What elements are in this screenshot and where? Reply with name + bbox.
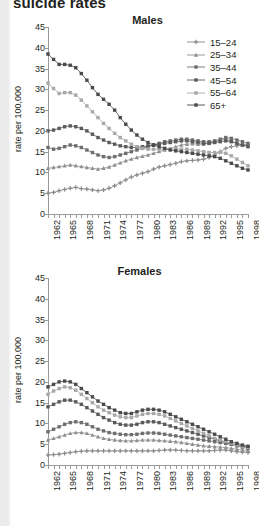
x-tick-mark [142,214,143,218]
x-tick-mark [104,465,105,469]
legend-item-45-54: 45–54 [185,74,236,87]
x-tick-label: 1968 [85,220,95,240]
y-tick-mark [44,340,48,341]
chart-panel-males: Males 051015202530354045rate per 100,000… [0,12,259,255]
x-tick-mark [209,214,210,218]
legend-item-25-34: 25–34 [185,49,236,62]
x-tick-mark [131,465,132,469]
x-tick-label: 1983 [168,471,178,491]
x-tick-mark [165,465,166,469]
x-tick-mark [198,214,199,218]
x-tick-mark [159,465,160,469]
legend-label: 55–64 [210,87,236,98]
legend-item-15-24: 15–24 [185,36,236,49]
x-tick-mark [109,465,110,469]
x-tick-mark [87,465,88,469]
x-tick-label: 1995 [235,471,245,491]
x-tick-mark [115,214,116,218]
x-tick-label: 1998 [252,220,260,240]
x-tick-mark [242,214,243,218]
x-tick-mark [181,465,182,469]
x-tick-mark [76,214,77,218]
x-tick-mark [109,214,110,218]
x-tick-label: 1971 [102,471,112,491]
x-tick-label: 1992 [218,220,228,240]
x-tick-mark [170,214,171,218]
x-tick-mark [170,465,171,469]
legend-marker-icon [185,74,207,86]
x-tick-mark [54,465,55,469]
x-tick-label: 1986 [185,471,195,491]
x-tick-mark [148,465,149,469]
y-tick-mark [44,403,48,404]
x-tick-mark [248,465,249,469]
y-tick-mark [44,278,48,279]
x-tick-label: 1965 [68,471,78,491]
chart-panel-females: Females 051015202530354045rate per 100,0… [0,263,259,523]
x-tick-label: 1968 [85,471,95,491]
x-tick-mark [198,465,199,469]
x-tick-mark [120,214,121,218]
legend-item-65+: 65+ [185,99,236,112]
series-line-15-24 [48,144,248,193]
x-tick-mark [98,465,99,469]
y-tick-mark [44,110,48,111]
page-title: suicide rates [13,0,106,11]
x-tick-mark [176,214,177,218]
legend-label: 35–44 [210,62,236,73]
x-tick-mark [92,465,93,469]
y-tick-mark [44,131,48,132]
x-tick-label: 1980 [152,471,162,491]
x-tick-label: 1971 [102,220,112,240]
x-tick-mark [215,214,216,218]
x-tick-label: 1962 [52,220,62,240]
x-tick-mark [148,214,149,218]
x-tick-mark [226,214,227,218]
y-tick-mark [44,172,48,173]
chart-legend: 15–2425–3435–4445–5455–6465+ [185,36,236,112]
x-tick-mark [76,465,77,469]
x-tick-mark [126,465,127,469]
x-tick-mark [137,465,138,469]
x-tick-label: 1995 [235,220,245,240]
x-tick-mark [248,214,249,218]
legend-marker-icon [185,36,207,48]
legend-marker-icon [185,49,207,61]
x-tick-mark [92,214,93,218]
x-tick-mark [215,465,216,469]
x-tick-label: 1974 [118,220,128,240]
x-tick-mark [231,465,232,469]
chart-title-females: Females [10,265,259,277]
x-tick-mark [70,214,71,218]
chart-svg [48,278,248,465]
x-tick-mark [220,465,221,469]
x-tick-mark [237,465,238,469]
y-tick-mark [44,69,48,70]
x-tick-label: 1983 [168,220,178,240]
x-tick-mark [126,214,127,218]
x-tick-label: 1974 [118,471,128,491]
x-tick-mark [59,214,60,218]
x-tick-mark [115,465,116,469]
x-tick-mark [142,465,143,469]
x-tick-mark [176,465,177,469]
x-tick-mark [159,214,160,218]
x-tick-mark [220,214,221,218]
legend-marker-icon [185,87,207,99]
plot-area-females: 051015202530354045rate per 100,000196219… [48,278,248,465]
y-tick-mark [44,382,48,383]
x-tick-mark [70,465,71,469]
x-tick-mark [154,214,155,218]
x-tick-mark [226,465,227,469]
legend-label: 45–54 [210,75,236,86]
legend-marker-icon [185,61,207,73]
x-tick-mark [242,465,243,469]
x-tick-label: 1989 [202,220,212,240]
y-tick-mark [44,89,48,90]
x-tick-mark [137,214,138,218]
x-tick-label: 1992 [218,471,228,491]
y-tick-mark [44,320,48,321]
x-tick-mark [181,214,182,218]
y-tick-mark [44,27,48,28]
x-tick-mark [209,465,210,469]
